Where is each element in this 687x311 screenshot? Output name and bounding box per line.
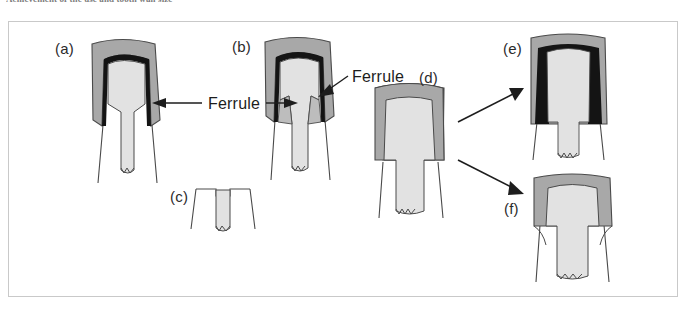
panel-e-drawing bbox=[531, 34, 607, 160]
panel-label-d: (d) bbox=[419, 69, 438, 86]
flow-arrow-d-to-f bbox=[458, 160, 524, 195]
panel-a-drawing bbox=[92, 40, 160, 184]
ferrule-annotation-2: Ferrule bbox=[352, 68, 404, 86]
panel-b-drawing bbox=[265, 38, 334, 181]
panel-e-core bbox=[547, 49, 590, 158]
panel-c-core-post bbox=[216, 190, 230, 231]
panel-label-b: (b) bbox=[232, 38, 251, 55]
flow-arrow-d-to-e bbox=[458, 88, 524, 122]
panel-f-core bbox=[546, 185, 599, 280]
panel-a-core-post bbox=[108, 61, 145, 174]
panel-f-drawing bbox=[534, 174, 612, 282]
panel-d-drawing bbox=[375, 84, 444, 219]
panel-label-e: (e) bbox=[503, 40, 522, 57]
panel-c-drawing bbox=[191, 189, 255, 231]
figure-artwork bbox=[0, 0, 687, 311]
figure-container: Achievement of the use and tooth wall si… bbox=[0, 0, 687, 311]
panel-d-core bbox=[384, 97, 435, 214]
panel-label-f: (f) bbox=[504, 200, 519, 217]
panel-label-c: (c) bbox=[170, 188, 188, 205]
ferrule-annotation-1: Ferrule bbox=[208, 95, 260, 113]
panel-label-a: (a) bbox=[55, 40, 74, 57]
